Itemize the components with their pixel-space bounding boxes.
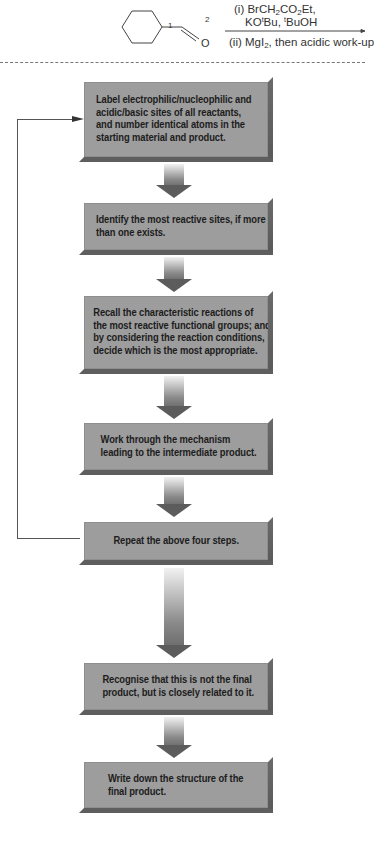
step-2-line-1: Identify the most reactive sites, if mor… <box>96 214 253 227</box>
reagent-step-2: (ii) MgI2, then acidic work-up <box>229 36 374 49</box>
step-2-line-2: than one exists. <box>96 227 253 240</box>
atom-label-2: 2 <box>205 15 209 24</box>
step-4-line-2: leading to the intermediate product. <box>101 447 254 460</box>
step-1-line-2: acidic/basic sites of all reactants, <box>96 107 253 120</box>
loop-vertical-line <box>17 119 18 539</box>
step-box-recall-reactions: Recall the characteristic reactions of t… <box>84 296 268 369</box>
step-box-mechanism: Work through the mechanism leading to th… <box>84 423 268 470</box>
down-arrow-icon <box>156 477 192 517</box>
step-3-line-3: by considering the reaction conditions, <box>93 332 253 345</box>
loop-bottom-line <box>17 538 80 539</box>
carbonyl-oxygen: O <box>201 37 210 49</box>
down-arrow-icon <box>156 257 192 292</box>
step-6-line-1: Recognise that this is not the final <box>102 674 253 687</box>
reagent-step-1-line-1: (i) BrCH2CO2Et, <box>234 3 316 16</box>
down-arrow-icon <box>156 568 192 658</box>
step-7-line-2: final product. <box>108 786 253 799</box>
step-5-line-1: Repeat the above four steps. <box>113 535 253 548</box>
step-1-line-4: starting material and product. <box>96 132 253 145</box>
step-box-final-product: Write down the structure of the final pr… <box>84 762 268 808</box>
down-arrow-icon <box>156 717 192 758</box>
down-arrow-icon <box>156 376 192 419</box>
step-1-line-1: Label electrophilic/nucleophilic and <box>96 94 253 107</box>
atom-label-1: 1 <box>168 21 172 30</box>
step-3-line-4: decide which is the most appropriate. <box>93 345 253 358</box>
section-divider <box>0 62 365 63</box>
step-7-line-1: Write down the structure of the <box>108 773 253 786</box>
step-box-label-sites: Label electrophilic/nucleophilic and aci… <box>84 82 268 157</box>
down-arrow-icon <box>156 164 192 198</box>
loop-arrowhead-icon <box>72 116 84 122</box>
step-6-line-2: product, but is closely related to it. <box>102 687 253 700</box>
step-box-repeat: Repeat the above four steps. <box>84 522 268 560</box>
reagent-step-1-line-2: KOtBu, tBuOH <box>245 16 317 29</box>
step-3-line-2: the most reactive functional groups; and <box>93 320 253 333</box>
loop-top-line <box>17 119 75 120</box>
step-1-line-3: and number identical atoms in the <box>96 119 253 132</box>
step-box-reactive-sites: Identify the most reactive sites, if mor… <box>84 203 268 250</box>
step-4-line-1: Work through the mechanism <box>101 434 254 447</box>
step-box-recognise-intermediate: Recognise that this is not the final pro… <box>84 663 268 710</box>
step-3-line-1: Recall the characteristic reactions of <box>93 307 253 320</box>
